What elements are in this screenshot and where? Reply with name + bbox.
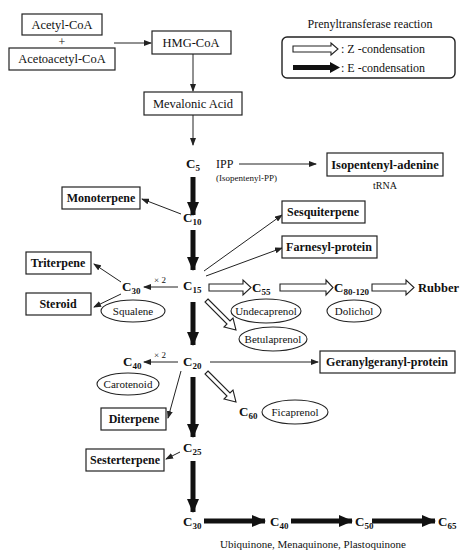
svg-text:Farnesyl-protein: Farnesyl-protein: [286, 240, 372, 254]
times-two-label-b: × 2: [154, 350, 166, 360]
node-c5: C5: [186, 156, 200, 173]
sesquiterpene-box: Sesquiterpene: [282, 201, 365, 223]
node-c50: C50: [355, 514, 374, 531]
squalene-ellipse: Squalene: [101, 300, 165, 322]
svg-text:Acetyl-CoA: Acetyl-CoA: [31, 18, 92, 32]
svg-text:Undecaprenol: Undecaprenol: [235, 305, 297, 317]
betulaprenol-ellipse: Betulaprenol: [239, 327, 307, 351]
svg-text:Squalene: Squalene: [113, 305, 153, 317]
node-c80-120: C80-120: [334, 280, 369, 297]
node-c20: C20: [183, 354, 202, 371]
dolichol-ellipse: Dolichol: [327, 300, 381, 322]
hollow-arrow-to-rubber: [372, 280, 414, 295]
times-two-label-a: × 2: [154, 275, 166, 285]
svg-text:Sesquiterpene: Sesquiterpene: [287, 205, 360, 219]
node-c40-quinone: C40: [270, 514, 289, 531]
arrow-to-triterpene: [94, 264, 121, 282]
arrow-to-diterpene: [168, 371, 181, 418]
isoprenoid-pathway-diagram: Acetyl-CoA + Acetoacetyl-CoA HMG-CoA Mev…: [0, 0, 469, 558]
hollow-arrow-c15-c55: [209, 280, 251, 295]
node-c30-quinone: C30: [183, 514, 202, 531]
svg-text:Carotenoid: Carotenoid: [104, 378, 153, 390]
arrow-to-monoterpene: [142, 199, 181, 214]
diterpene-box: Diterpene: [101, 408, 166, 430]
triterpene-box: Triterpene: [26, 252, 91, 274]
node-c60: C60: [239, 404, 258, 421]
acetyl-coa-box: Acetyl-CoA: [22, 14, 102, 35]
svg-text:Ficaprenol: Ficaprenol: [271, 406, 318, 418]
svg-text:Isopentenyl-adenine: Isopentenyl-adenine: [331, 158, 439, 172]
rubber-label: Rubber: [418, 281, 459, 295]
ipp-label: IPP: [216, 157, 234, 171]
svg-text:: E -condensation: : E -condensation: [341, 61, 425, 75]
trna-label: tRNA: [373, 180, 398, 191]
svg-text:Dolichol: Dolichol: [335, 305, 374, 317]
mevalonic-acid-box: Mevalonic Acid: [144, 92, 242, 115]
node-c55: C55: [252, 280, 271, 297]
ficaprenol-ellipse: Ficaprenol: [262, 400, 328, 424]
acetoacetyl-coa-box: Acetoacetyl-CoA: [9, 48, 115, 70]
ipp-full-label: (Isopentenyl-PP): [216, 173, 277, 183]
isopentenyl-adenine-box: Isopentenyl-adenine: [327, 153, 443, 176]
carotenoid-ellipse: Carotenoid: [97, 373, 159, 395]
monoterpene-box: Monoterpene: [62, 187, 140, 209]
svg-text:: Z -condensation: : Z -condensation: [341, 42, 425, 56]
hollow-arrow-to-betulaprenol: [205, 299, 236, 330]
svg-text:Acetoacetyl-CoA: Acetoacetyl-CoA: [18, 52, 105, 66]
svg-text:Diterpene: Diterpene: [109, 412, 160, 426]
svg-text:Monoterpene: Monoterpene: [67, 191, 136, 205]
node-c40-carotenoid: C40: [123, 354, 142, 371]
svg-text:Sesterterpene: Sesterterpene: [90, 453, 161, 467]
svg-text:Betulaprenol: Betulaprenol: [245, 333, 302, 345]
svg-text:Triterpene: Triterpene: [31, 256, 86, 270]
svg-text:Geranylgeranyl-protein: Geranylgeranyl-protein: [326, 355, 448, 369]
hollow-arrow-c55-c80: [280, 280, 333, 295]
legend-title: Prenyltransferase reaction: [308, 17, 433, 31]
plus-sign: +: [59, 35, 66, 49]
svg-text:Mevalonic Acid: Mevalonic Acid: [153, 97, 234, 111]
node-c65: C65: [438, 514, 457, 531]
svg-text:HMG-CoA: HMG-CoA: [163, 36, 220, 50]
arrow-to-farnesyl-protein: [206, 248, 282, 276]
steroid-box: Steroid: [26, 293, 91, 315]
svg-text:Steroid: Steroid: [39, 297, 76, 311]
geranylgeranyl-protein-box: Geranylgeranyl-protein: [320, 351, 455, 373]
node-c30-squalene: C30: [122, 279, 141, 296]
undecaprenol-ellipse: Undecaprenol: [231, 299, 301, 323]
farnesyl-protein-box: Farnesyl-protein: [282, 236, 377, 258]
quinones-label: Ubiquinone, Menaquinone, Plastoquinone: [220, 538, 406, 550]
node-c15: C15: [183, 278, 202, 295]
sesterterpene-box: Sesterterpene: [86, 449, 164, 471]
hmg-coa-box: HMG-CoA: [152, 31, 231, 54]
legend-box: : Z -condensation : E -condensation: [282, 37, 455, 78]
hollow-arrow-to-c60: [205, 371, 236, 402]
node-c25: C25: [183, 440, 202, 457]
arrow-to-sesterterpene: [166, 452, 180, 459]
